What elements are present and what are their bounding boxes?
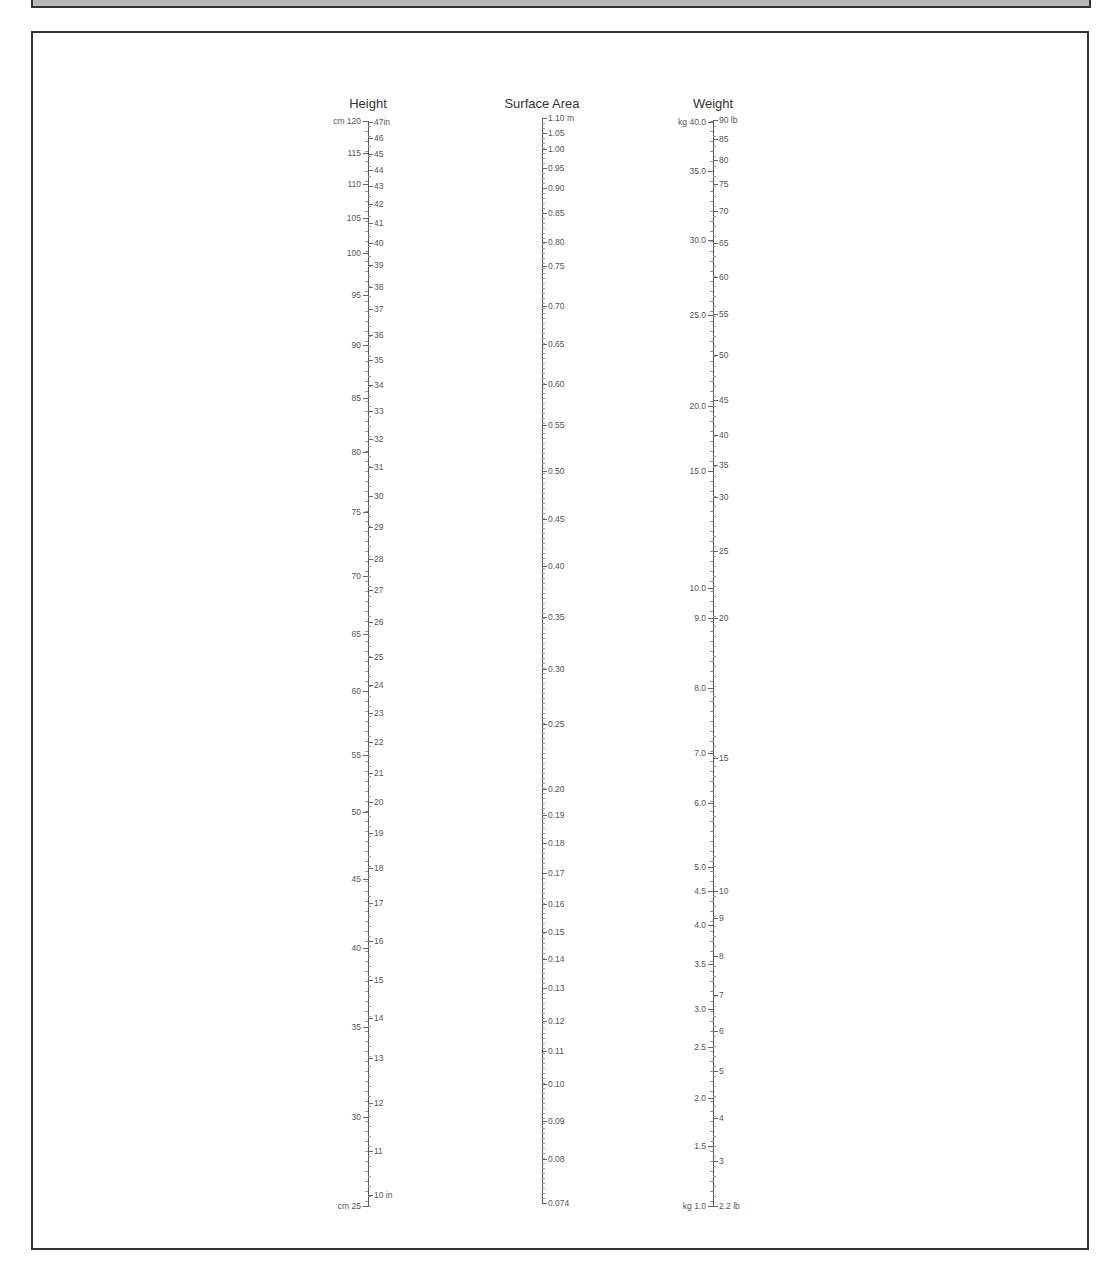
minor-tick bbox=[368, 786, 371, 787]
weight-right-label: 3 bbox=[719, 1156, 724, 1166]
minor-tick bbox=[368, 956, 371, 957]
weight-right-label: 55 bbox=[719, 309, 728, 319]
minor-tick bbox=[365, 1171, 368, 1172]
minor-tick bbox=[365, 401, 368, 402]
minor-tick bbox=[713, 236, 716, 237]
minor-tick bbox=[710, 201, 713, 202]
minor-tick bbox=[365, 141, 368, 142]
major-tick bbox=[542, 242, 547, 243]
minor-tick bbox=[368, 146, 371, 147]
height-right-label: 12 bbox=[374, 1098, 383, 1108]
major-tick bbox=[368, 204, 373, 205]
minor-tick bbox=[368, 876, 371, 877]
minor-tick bbox=[542, 538, 545, 539]
major-tick bbox=[363, 253, 368, 254]
minor-tick bbox=[713, 1046, 716, 1047]
minor-tick bbox=[368, 976, 371, 977]
minor-tick bbox=[710, 361, 713, 362]
minor-tick bbox=[542, 768, 545, 769]
minor-tick bbox=[710, 1201, 713, 1202]
minor-tick bbox=[542, 713, 545, 714]
minor-tick bbox=[365, 891, 368, 892]
minor-tick bbox=[365, 1071, 368, 1072]
major-tick bbox=[708, 122, 713, 123]
minor-tick bbox=[365, 521, 368, 522]
minor-tick bbox=[368, 256, 371, 257]
minor-tick bbox=[713, 476, 716, 477]
major-tick bbox=[713, 758, 718, 759]
minor-tick bbox=[542, 553, 545, 554]
major-tick bbox=[368, 773, 373, 774]
major-tick bbox=[713, 1161, 718, 1162]
minor-tick bbox=[542, 1133, 545, 1134]
minor-tick bbox=[542, 783, 545, 784]
minor-tick bbox=[710, 371, 713, 372]
minor-tick bbox=[542, 743, 545, 744]
minor-tick bbox=[542, 243, 545, 244]
minor-tick bbox=[542, 608, 545, 609]
minor-tick bbox=[542, 453, 545, 454]
minor-tick bbox=[542, 1033, 545, 1034]
weight-left-label: 8.0 bbox=[694, 683, 706, 693]
minor-tick bbox=[368, 1116, 371, 1117]
minor-tick bbox=[713, 346, 716, 347]
minor-tick bbox=[542, 893, 545, 894]
minor-tick bbox=[542, 1143, 545, 1144]
major-tick bbox=[713, 120, 718, 121]
minor-tick bbox=[368, 896, 371, 897]
minor-tick bbox=[365, 241, 368, 242]
minor-tick bbox=[713, 616, 716, 617]
minor-tick bbox=[368, 196, 371, 197]
minor-tick bbox=[368, 476, 371, 477]
major-tick bbox=[368, 685, 373, 686]
minor-tick bbox=[368, 966, 371, 967]
weight-left-label: 35.0 bbox=[689, 166, 706, 176]
minor-tick bbox=[542, 253, 545, 254]
minor-tick bbox=[713, 206, 716, 207]
minor-tick bbox=[368, 716, 371, 717]
minor-tick bbox=[710, 521, 713, 522]
minor-tick bbox=[713, 1116, 716, 1117]
minor-tick bbox=[365, 271, 368, 272]
weight-left-label: 2.0 bbox=[694, 1093, 706, 1103]
minor-tick bbox=[368, 1046, 371, 1047]
minor-tick bbox=[542, 698, 545, 699]
minor-tick bbox=[368, 246, 371, 247]
minor-tick bbox=[713, 156, 716, 157]
minor-tick bbox=[710, 241, 713, 242]
minor-tick bbox=[368, 366, 371, 367]
minor-tick bbox=[368, 926, 371, 927]
major-tick bbox=[542, 118, 547, 119]
minor-tick bbox=[542, 1168, 545, 1169]
major-tick bbox=[368, 742, 373, 743]
minor-tick bbox=[542, 558, 545, 559]
minor-tick bbox=[365, 781, 368, 782]
minor-tick bbox=[365, 971, 368, 972]
weight-axis-line bbox=[713, 121, 714, 1206]
minor-tick bbox=[368, 236, 371, 237]
major-tick bbox=[368, 833, 373, 834]
major-tick bbox=[368, 1195, 373, 1196]
minor-tick bbox=[542, 323, 545, 324]
major-tick bbox=[368, 1058, 373, 1059]
minor-tick bbox=[368, 1076, 371, 1077]
minor-tick bbox=[713, 766, 716, 767]
minor-tick bbox=[365, 431, 368, 432]
major-tick bbox=[368, 1151, 373, 1152]
minor-tick bbox=[710, 1061, 713, 1062]
surface-area-right-label: 0.95 bbox=[548, 163, 565, 173]
minor-tick bbox=[542, 203, 545, 204]
minor-tick bbox=[365, 661, 368, 662]
minor-tick bbox=[368, 1146, 371, 1147]
minor-tick bbox=[713, 716, 716, 717]
major-tick bbox=[542, 1159, 547, 1160]
minor-tick bbox=[542, 1068, 545, 1069]
minor-tick bbox=[542, 758, 545, 759]
height-right-label: 43 bbox=[374, 181, 383, 191]
surface-area-right-label: 0.10 bbox=[548, 1079, 565, 1089]
minor-tick bbox=[542, 678, 545, 679]
surface-area-right-label: 0.25 bbox=[548, 719, 565, 729]
minor-tick bbox=[713, 936, 716, 937]
minor-tick bbox=[368, 426, 371, 427]
major-tick bbox=[363, 576, 368, 577]
